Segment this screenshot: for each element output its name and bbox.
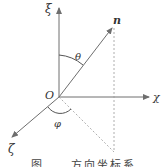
n-vector [59, 28, 112, 97]
projection-horizontal [59, 97, 114, 152]
zeta-axis [12, 97, 59, 137]
chi-label: χ [152, 91, 161, 104]
theta-label: θ [75, 51, 81, 62]
xi-label: ξ [45, 2, 53, 16]
phi-arc [48, 107, 71, 113]
zeta-label: ζ [8, 142, 16, 156]
figure-caption: 图 ... 方向坐标系 [0, 156, 167, 167]
phi-label: φ [54, 118, 61, 129]
origin-label: O [45, 89, 54, 102]
vector-label: n [113, 14, 121, 27]
coordinate-diagram: ξ χ ζ O n θ φ [0, 0, 167, 167]
